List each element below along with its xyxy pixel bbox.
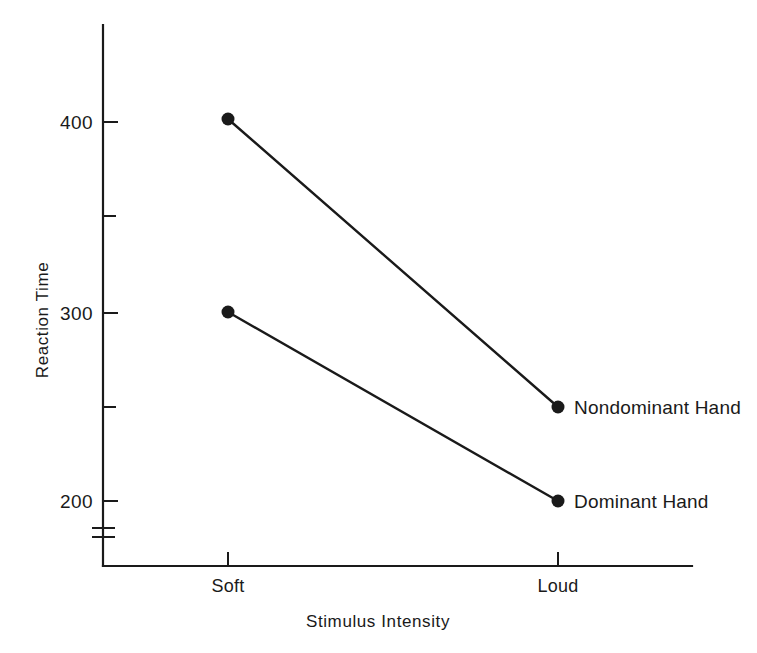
series-label-nondominant: Nondominant Hand: [574, 397, 741, 418]
x-category-label-loud: Loud: [537, 576, 578, 596]
y-axis-title: Reaction Time: [33, 262, 52, 378]
data-point-dominant-soft: [222, 306, 235, 319]
y-tick-label-300: 300: [60, 303, 93, 324]
data-point-nondominant-loud: [552, 401, 565, 414]
series-line-nondominant: [228, 119, 558, 407]
data-point-dominant-loud: [552, 495, 565, 508]
x-axis-title: Stimulus Intensity: [306, 612, 450, 631]
reaction-time-line-chart: 400 300 200 Soft Loud Nondominant Hand D…: [0, 0, 757, 653]
x-category-label-soft: Soft: [211, 576, 244, 596]
data-point-nondominant-soft: [222, 113, 235, 126]
y-tick-label-400: 400: [60, 112, 93, 133]
series-label-dominant: Dominant Hand: [574, 491, 709, 512]
series-line-dominant: [228, 312, 558, 501]
y-tick-label-200: 200: [60, 491, 93, 512]
chart-page: 400 300 200 Soft Loud Nondominant Hand D…: [0, 0, 757, 653]
